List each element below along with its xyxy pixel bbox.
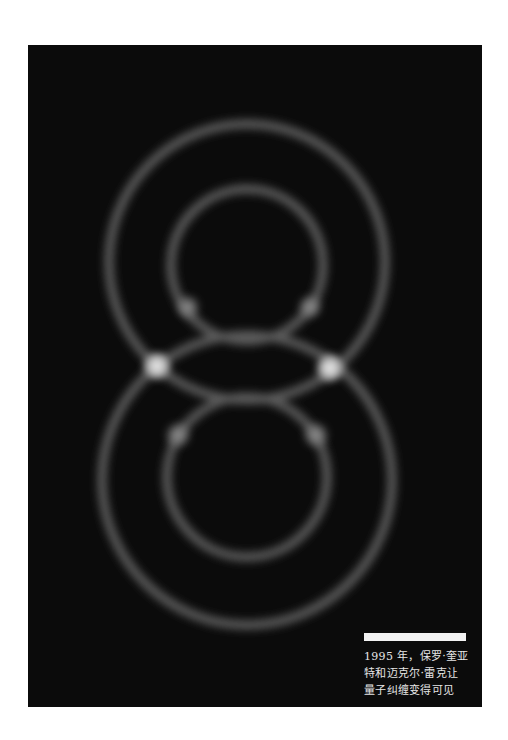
upper-left-dim-spot xyxy=(174,293,202,321)
lower-outer-ring xyxy=(102,335,392,625)
lower-right-dim-spot xyxy=(301,420,331,450)
left-intersection-spot xyxy=(141,350,173,382)
entanglement-photo xyxy=(28,45,482,707)
caption-divider-bar xyxy=(364,633,466,641)
ring-pattern xyxy=(28,45,482,707)
lower-inner-ring xyxy=(167,397,327,557)
photo-caption: 1995 年，保罗·奎亚 特和迈克尔·雷克让 量子纠缠变得可见 xyxy=(364,648,472,699)
caption-line-1: 1995 年，保罗·奎亚 xyxy=(364,648,472,665)
upper-right-dim-spot xyxy=(296,293,324,321)
lower-left-dim-spot xyxy=(163,420,193,450)
right-intersection-spot xyxy=(314,352,346,384)
caption-line-2: 特和迈克尔·雷克让 xyxy=(364,665,472,682)
caption-line-3: 量子纠缠变得可见 xyxy=(364,682,472,699)
